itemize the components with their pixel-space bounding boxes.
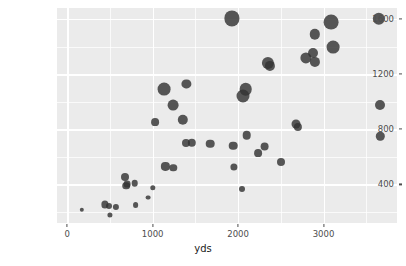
gridline-minor-horizontal — [57, 157, 397, 158]
data-point — [113, 204, 119, 210]
gridline-minor-vertical — [281, 8, 282, 223]
y-tick-label: 1200 — [372, 69, 394, 79]
y-tick-mark — [399, 18, 403, 19]
x-tick-label: 2000 — [227, 229, 249, 239]
x-tick-label: 0 — [65, 229, 70, 239]
x-tick-mark — [67, 224, 68, 228]
y-tick-label: 800 — [378, 124, 394, 134]
data-point — [229, 142, 238, 151]
data-point — [182, 79, 191, 88]
data-point — [239, 186, 245, 192]
x-tick-label: 3000 — [313, 229, 335, 239]
gridline-minor-horizontal — [57, 102, 397, 103]
data-point — [131, 180, 138, 187]
y-tick-mark — [399, 74, 403, 75]
y-tick-label: 400 — [378, 179, 394, 189]
y-tick-label: 1600 — [372, 14, 394, 24]
x-tick-mark — [238, 224, 239, 228]
x-tick-mark — [323, 224, 324, 228]
data-point — [265, 61, 275, 71]
data-point — [133, 202, 139, 208]
gridline-major-horizontal — [57, 74, 397, 75]
x-tick-mark — [152, 224, 153, 228]
gridline-major-horizontal — [57, 184, 397, 185]
plot-panel — [57, 8, 397, 223]
data-point — [107, 212, 112, 217]
data-point — [239, 83, 252, 96]
y-tick-mark — [399, 184, 403, 185]
data-point — [206, 139, 215, 148]
data-point — [169, 164, 176, 171]
data-point — [146, 195, 151, 200]
data-point — [150, 185, 155, 190]
x-axis-title: yds — [0, 243, 406, 254]
gridline-minor-vertical — [195, 8, 196, 223]
gridline-minor-horizontal — [57, 47, 397, 48]
gridline-minor-vertical — [366, 8, 367, 223]
gridline-major-horizontal — [57, 129, 397, 130]
data-point — [277, 158, 285, 166]
data-point — [177, 114, 187, 124]
data-point — [168, 100, 179, 111]
data-point — [124, 180, 131, 187]
data-point — [309, 29, 319, 39]
gridline-major-vertical — [324, 8, 325, 223]
data-point — [310, 57, 320, 67]
chart-root: pa_yds yds 400800120016000100020003000 — [0, 0, 406, 266]
data-point — [327, 41, 340, 54]
data-point — [157, 83, 170, 96]
data-point — [242, 131, 251, 140]
gridline-minor-vertical — [110, 8, 111, 223]
y-tick-mark — [399, 129, 403, 130]
data-point — [254, 149, 262, 157]
data-point — [161, 162, 169, 170]
x-tick-label: 1000 — [142, 229, 164, 239]
data-point — [151, 118, 159, 126]
gridline-major-vertical — [67, 8, 68, 223]
data-point — [260, 142, 269, 151]
data-point — [106, 203, 112, 209]
data-point — [375, 100, 385, 110]
data-point — [324, 15, 339, 30]
data-point — [231, 164, 238, 171]
gridline-major-vertical — [153, 8, 154, 223]
